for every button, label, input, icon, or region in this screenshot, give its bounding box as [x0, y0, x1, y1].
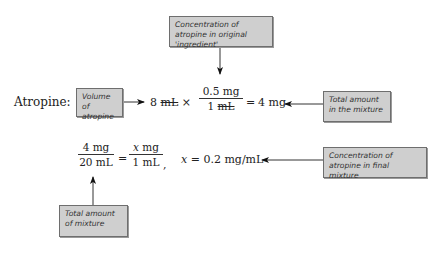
callout-volume: Volume of atropine: [76, 88, 123, 117]
den-value: 1: [208, 100, 215, 112]
callout-text: Total amount of mixture: [65, 209, 115, 228]
callout-text: Total amount in the mixture: [329, 95, 383, 114]
callout-concentration-final: Concentration of atropine in final mixtu…: [323, 147, 427, 178]
concentration-fraction: 0.5 mg 1 mL: [199, 85, 243, 112]
drug-label: Atropine:: [14, 95, 71, 109]
callout-text: Volume of atropine: [82, 92, 114, 121]
callout-text: Concentration of atropine in final mixtu…: [329, 151, 392, 180]
callout-total-amount: Total amount in the mixture: [323, 91, 391, 122]
volume-value: 8: [150, 96, 157, 109]
final-concentration: x = 0.2 mg/mL: [181, 153, 263, 166]
left-denominator: 20 mL: [78, 155, 114, 168]
left-fraction: 4 mg 20 mL: [78, 141, 114, 168]
num-unit: mg: [139, 141, 159, 153]
left-numerator: 4 mg: [78, 141, 114, 155]
volume-unit: mL: [161, 96, 179, 109]
callout-text: Concentration of atropine in original 'i…: [175, 20, 247, 49]
equals-sign-2: =: [118, 152, 127, 165]
callout-concentration-original: Concentration of atropine in original 'i…: [169, 16, 273, 47]
right-fraction: x mg 1 mL: [129, 141, 163, 168]
result-amount: 4 mg: [258, 96, 286, 109]
fraction-denominator: 1 mL: [199, 99, 243, 112]
volume-term: 8 mL ×: [150, 96, 191, 109]
right-numerator: x mg: [129, 141, 163, 155]
final-result: = 0.2 mg/mL: [191, 153, 264, 166]
right-denominator: 1 mL: [129, 155, 163, 168]
den-unit: mL: [218, 100, 235, 112]
fraction-numerator: 0.5 mg: [199, 85, 243, 99]
equals-sign-1: =: [246, 96, 255, 109]
callout-total-of-mixture: Total amount of mixture: [59, 205, 128, 237]
var-x: x: [181, 153, 187, 166]
comma: ,: [163, 158, 167, 171]
times-sign: ×: [182, 96, 191, 109]
